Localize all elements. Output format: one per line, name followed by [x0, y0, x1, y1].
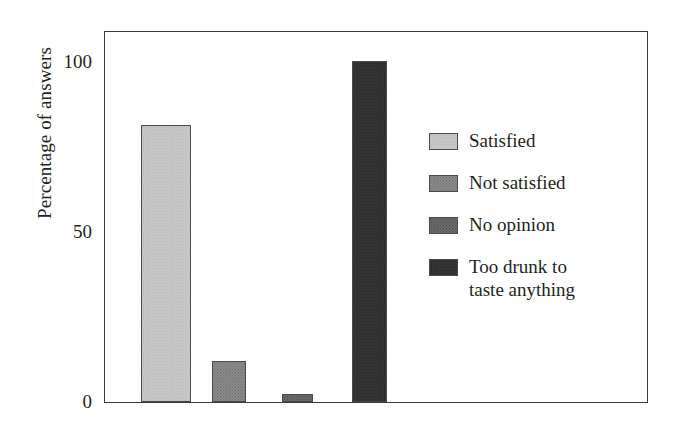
legend-swatch-icon-no-opinion: [429, 217, 458, 234]
chart-legend: Satisfied Not satisfied No opinion Too d…: [429, 129, 644, 320]
plot-area: Satisfied Not satisfied No opinion Too d…: [104, 31, 648, 403]
legend-swatch-icon-not-satisfied: [429, 175, 458, 192]
bar-chart-figure: Percentage of answers 100 50 0 Satisfied…: [0, 0, 676, 424]
legend-item-satisfied: Satisfied: [429, 129, 644, 152]
legend-swatch-icon-satisfied: [429, 133, 458, 150]
legend-label-satisfied: Satisfied: [469, 129, 536, 152]
legend-item-not-satisfied: Not satisfied: [429, 171, 644, 194]
bar-satisfied: [141, 125, 191, 402]
legend-label-too-drunk: Too drunk to taste anything: [469, 255, 575, 301]
y-tick-label-50: 50: [36, 222, 92, 241]
legend-item-too-drunk: Too drunk to taste anything: [429, 255, 644, 301]
legend-label-no-opinion: No opinion: [469, 213, 555, 236]
bar-no-opinion: [282, 394, 313, 402]
y-tick-label-100: 100: [36, 52, 92, 71]
bar-not-satisfied: [212, 361, 246, 402]
legend-label-not-satisfied: Not satisfied: [469, 171, 566, 194]
legend-swatch-icon-too-drunk: [429, 259, 458, 276]
y-tick-label-0: 0: [36, 392, 92, 411]
bar-too-drunk: [352, 61, 387, 402]
legend-item-no-opinion: No opinion: [429, 213, 644, 236]
